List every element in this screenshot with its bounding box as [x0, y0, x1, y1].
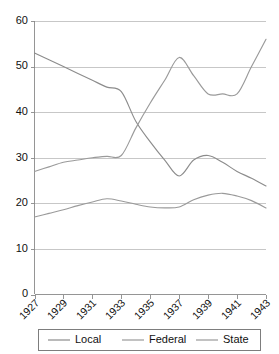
y-tick-label-10: 10 — [16, 242, 28, 254]
legend-label-federal: Federal — [149, 333, 186, 345]
x-tick-label-1943: 1943 — [247, 296, 272, 321]
x-tick-label-1927: 1927 — [16, 296, 41, 321]
y-tick-label-40: 40 — [16, 105, 28, 117]
series-line-local — [35, 53, 267, 186]
series-line-state — [35, 193, 267, 217]
x-tick-label-1929: 1929 — [44, 296, 69, 321]
chart-svg: 0102030405060 19271929193119331935193719… — [0, 0, 279, 354]
x-axis-tick-labels: 192719291931193319351937193919411943 — [16, 296, 272, 321]
x-tick-label-1937: 1937 — [160, 296, 185, 321]
y-tick-label-50: 50 — [16, 59, 28, 71]
y-axis-tick-labels: 0102030405060 — [16, 14, 28, 300]
x-tick-label-1941: 1941 — [218, 296, 243, 321]
y-tick-label-30: 30 — [16, 151, 28, 163]
x-tick-label-1939: 1939 — [189, 296, 214, 321]
y-axis-tickmarks — [31, 22, 35, 296]
y-tick-label-0: 0 — [22, 287, 28, 299]
gridlines — [35, 22, 267, 250]
legend-label-local: Local — [75, 333, 101, 345]
x-axis-tickmarks — [36, 295, 267, 299]
line-chart: 0102030405060 19271929193119331935193719… — [0, 0, 279, 354]
x-tick-label-1931: 1931 — [73, 296, 98, 321]
y-tick-label-60: 60 — [16, 14, 28, 26]
series-line-federal — [35, 39, 267, 171]
x-tick-label-1935: 1935 — [131, 296, 156, 321]
y-tick-label-20: 20 — [16, 196, 28, 208]
x-tick-label-1933: 1933 — [102, 296, 127, 321]
legend-label-state: State — [223, 333, 249, 345]
series-lines — [35, 39, 267, 217]
